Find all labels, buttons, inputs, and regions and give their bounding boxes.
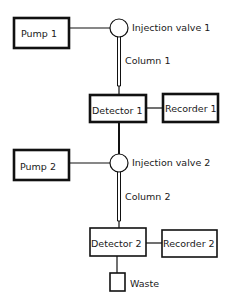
detector2-label: Detector 2	[91, 238, 141, 249]
pump1-label: Pump 1	[21, 28, 57, 39]
injection-valve1-label: Injection valve 1	[132, 22, 210, 33]
waste-container	[110, 273, 125, 291]
injection-valve1-circle	[110, 19, 128, 37]
injection-valve2-circle	[110, 154, 128, 172]
recorder2-label: Recorder 2	[163, 238, 215, 249]
injection-valve2-label: Injection valve 2	[132, 157, 210, 168]
waste-label: Waste	[130, 278, 159, 289]
column2-label: Column 2	[125, 191, 170, 202]
column1-label: Column 1	[125, 55, 170, 66]
recorder1-label: Recorder 1	[165, 103, 217, 114]
detector1-label: Detector 1	[92, 105, 142, 116]
pump2-label: Pump 2	[20, 161, 56, 172]
diagram-canvas: Pump 1 Injection valve 1 Column 1 Detect…	[0, 0, 231, 307]
